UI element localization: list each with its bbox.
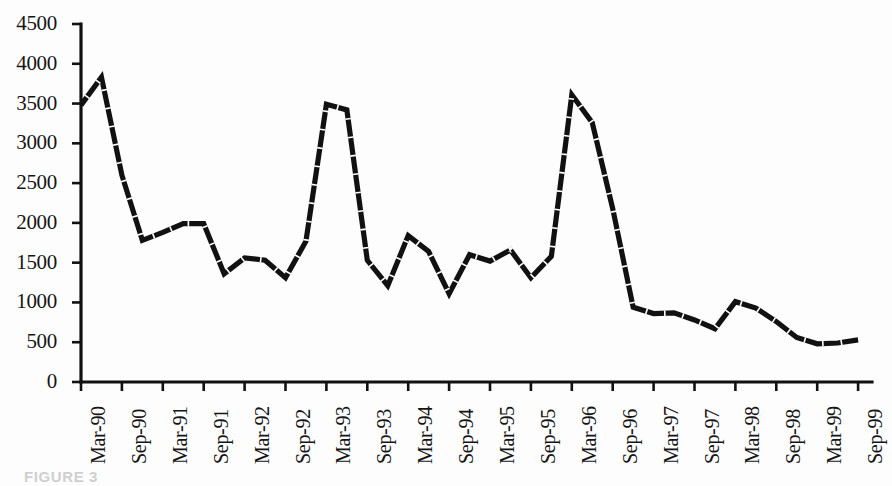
x-axis-tick-label: Mar-93 (333, 406, 353, 464)
x-axis-tick-label: Sep-94 (456, 409, 476, 464)
x-axis-tick-label: Sep-92 (293, 409, 313, 464)
x-axis-tick-label: Mar-94 (415, 406, 435, 464)
x-axis-tick-label: Sep-93 (374, 409, 394, 464)
x-axis-tick-label: Mar-98 (742, 406, 762, 464)
x-axis-tick-label: Sep-95 (538, 409, 558, 464)
x-axis-tick-label: Sep-99 (865, 409, 885, 464)
x-axis-tick-label: Mar-96 (579, 406, 599, 464)
x-axis-tick-label: Sep-97 (702, 409, 722, 464)
x-axis-tick-label: Sep-98 (783, 409, 803, 464)
x-axis-tick-label: Sep-96 (620, 409, 640, 464)
x-axis-tick-label: Mar-99 (824, 406, 844, 464)
x-axis-tick-label: Mar-91 (170, 406, 190, 464)
figure-caption: FIGURE 3 (24, 468, 98, 482)
x-axis-tick-label: Mar-97 (661, 406, 681, 464)
figure-root: 050010001500200025003000350040004500 Mar… (0, 0, 892, 486)
x-axis-tick-labels: Mar-90Sep-90Mar-91Sep-91Mar-92Sep-92Mar-… (0, 0, 892, 486)
x-axis-tick-label: Mar-92 (252, 406, 272, 464)
x-axis-tick-label: Sep-91 (211, 409, 231, 464)
x-axis-tick-label: Sep-90 (129, 409, 149, 464)
x-axis-tick-label: Mar-95 (497, 406, 517, 464)
x-axis-tick-label: Mar-90 (88, 406, 108, 464)
